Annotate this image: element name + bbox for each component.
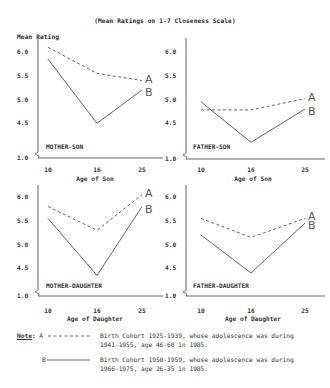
series-a-line: [48, 47, 142, 80]
x-tick-label: 25: [138, 307, 146, 314]
note-b-letter: B: [42, 355, 46, 364]
y-tick-label: 1.0: [165, 292, 176, 299]
y-tick-label: 4.5: [17, 119, 28, 126]
series-b-line: [48, 207, 142, 276]
y-tick-label: 1.0: [17, 292, 28, 299]
series-a-line: [201, 218, 305, 237]
note-label: Note: [17, 332, 32, 339]
y-tick-label: 4.5: [17, 264, 28, 271]
legend-dashed-line-icon: [48, 333, 90, 339]
note-b-text-1: Birth Cohort 1950-1959, whose adolescenc…: [100, 355, 294, 364]
y-tick-label: 1.0: [165, 155, 176, 162]
x-axis-title: Age of Son: [76, 175, 114, 183]
series-a-end-label: A: [308, 91, 316, 104]
y-tick-label: 4.5: [165, 264, 176, 271]
y-tick-label: 5.5: [17, 217, 28, 224]
note-a-text-1: Birth Cohort 1925-1939, whose adolescenc…: [100, 331, 294, 340]
series-a-line: [201, 99, 305, 110]
x-tick-label: 10: [44, 307, 52, 314]
x-tick-label: 10: [197, 307, 205, 314]
x-tick-label: 25: [301, 307, 309, 314]
x-axis-title: Age of Son: [234, 175, 272, 183]
series-a-end-label: A: [145, 187, 153, 200]
y-tick-label: 5.0: [17, 241, 28, 248]
axis-break-icon: [35, 152, 39, 158]
x-tick-label: 25: [138, 166, 146, 173]
note-a-text-2: 1941-1955, age 46-60 in 1985.: [100, 340, 208, 349]
note-a-letter: A: [39, 332, 43, 339]
axis-break-icon: [35, 290, 39, 296]
series-a-end-label: A: [145, 73, 153, 86]
panel-label: MOTHER-DAUGHTER: [46, 282, 102, 289]
x-axis-title: Age of Daughter: [225, 315, 281, 323]
y-tick-label: 6.0: [165, 48, 176, 55]
series-b-end-label: B: [145, 86, 153, 99]
x-tick-label: 10: [197, 166, 205, 173]
note-a-key: Note: A: [17, 331, 43, 340]
x-tick-label: 25: [301, 166, 309, 173]
x-axis-title: Age of Daughter: [67, 315, 123, 323]
series-b-end-label: B: [145, 203, 153, 216]
series-b-line: [201, 102, 305, 142]
y-tick-label: 1.0: [17, 154, 28, 161]
panel-label: FATHER-SON: [193, 143, 231, 150]
y-tick-label: 5.0: [165, 96, 176, 103]
x-tick-label: 16: [247, 166, 255, 173]
y-tick-label: 6.0: [165, 193, 176, 200]
y-tick-label: 6.0: [17, 48, 28, 55]
axis-break-icon: [183, 290, 187, 296]
y-tick-label: 5.5: [165, 72, 176, 79]
series-a-line: [48, 195, 142, 231]
panel-label: MOTHER-SON: [46, 143, 84, 150]
x-tick-label: 16: [93, 166, 101, 173]
panel-label: FATHER-DAUGHTER: [193, 282, 249, 289]
y-tick-label: 5.0: [17, 96, 28, 103]
legend-solid-line-icon: [47, 357, 90, 363]
series-b-end-label: B: [308, 105, 316, 118]
y-tick-label: 5.5: [165, 217, 176, 224]
x-tick-label: 10: [44, 166, 52, 173]
series-b-end-label: B: [308, 219, 316, 232]
x-tick-label: 16: [93, 307, 101, 314]
y-tick-label: 5.0: [165, 241, 176, 248]
x-tick-label: 16: [247, 307, 255, 314]
chart-panels: 6.05.55.04.51.0101625Age of SonMOTHER-SO…: [0, 0, 330, 388]
y-tick-label: 5.5: [17, 72, 28, 79]
note-b-text-2: 1966-1975, age 26-35 in 1985.: [100, 364, 208, 373]
y-tick-label: 6.0: [17, 193, 28, 200]
series-b-line: [201, 223, 305, 273]
y-tick-label: 4.5: [165, 119, 176, 126]
series-b-line: [48, 59, 142, 123]
axis-break-icon: [183, 153, 187, 159]
